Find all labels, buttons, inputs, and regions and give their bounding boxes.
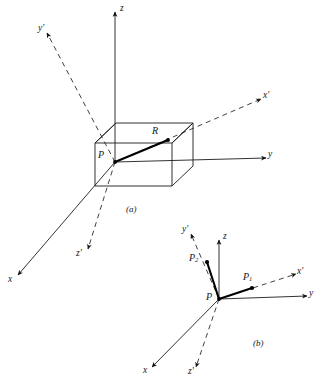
panel-b-group (152, 234, 307, 367)
axis-x-line-a (18, 162, 115, 275)
figure-canvas: z y x y' x' z' P R (a) z y x y' x' z' P … (0, 0, 321, 388)
point-label-P1-sub: 1 (249, 275, 252, 282)
box-left-edge (95, 123, 116, 143)
point-label-P-a: P (98, 150, 104, 160)
axis-label-y-a: y (268, 150, 272, 160)
panel-a-group (18, 12, 266, 275)
box-top-face (95, 123, 193, 143)
point-P1-dot (250, 286, 254, 290)
axis-label-z-a: z (120, 4, 124, 14)
axis-label-xprime-b: x' (297, 267, 303, 277)
diagram-svg (0, 0, 321, 388)
axis-label-zprime-b: z' (188, 367, 194, 377)
axis-zprime-line-b (196, 299, 219, 367)
point-label-P-b: P (206, 292, 212, 302)
axis-zprime-line-a (88, 162, 115, 249)
vector-P-to-P1 (219, 288, 252, 299)
caption-a: (a) (126, 205, 137, 214)
axis-label-y-b: y (309, 289, 313, 299)
point-label-P2: P2 (189, 253, 198, 264)
axis-label-yprime-a: y' (38, 24, 44, 34)
point-P-dot-b (217, 297, 221, 301)
axis-label-xprime-a: x' (263, 91, 269, 101)
axis-label-x-a: x (8, 275, 12, 285)
point-P-dot-a (113, 160, 117, 164)
axis-label-zprime-a: z' (76, 249, 82, 259)
point-label-P1: P1 (243, 272, 252, 283)
box-front-face (95, 143, 172, 186)
point-R-dot-a (166, 138, 170, 142)
axis-y-line-b (219, 296, 307, 299)
axis-label-yprime-b: y' (182, 225, 188, 235)
point-P2-dot (205, 260, 209, 264)
axis-label-x-b: x (143, 366, 147, 376)
axis-label-z-b: z (223, 232, 227, 242)
axis-x-line-b (152, 299, 219, 367)
box-right-face (172, 123, 193, 186)
caption-b: (b) (253, 339, 264, 348)
point-label-R-a: R (152, 126, 158, 136)
point-label-P2-sub: 2 (195, 256, 198, 263)
axis-y-line-a (115, 158, 266, 162)
